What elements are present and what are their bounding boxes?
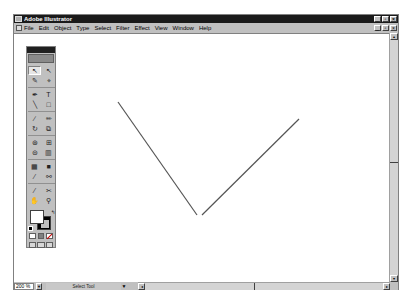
color-mode-button[interactable] (29, 233, 36, 239)
lasso-icon: ⌖ (47, 76, 51, 85)
adobe-logo[interactable] (28, 54, 54, 63)
type-icon: T (46, 90, 50, 99)
mesh-icon: ▦ (31, 162, 38, 171)
blend-tool[interactable]: ⚯ (42, 172, 55, 181)
menu-view[interactable]: View (155, 25, 168, 31)
gradient-mode-button[interactable] (38, 233, 45, 239)
menu-effect[interactable]: Effect (134, 25, 149, 31)
full-screen-menu-mode-button[interactable] (37, 242, 44, 248)
maximize-button[interactable]: ▫ (382, 16, 389, 22)
menu-object[interactable]: Object (54, 25, 71, 31)
tool-separator (28, 183, 55, 184)
rotate-icon: ↻ (32, 124, 38, 133)
blend-icon: ⚯ (46, 172, 52, 181)
slice-tool[interactable]: ⁄ (28, 186, 41, 195)
path-left-line[interactable] (118, 102, 197, 215)
horizontal-scroll-thumb[interactable] (254, 283, 255, 290)
menu-bar: File Edit Object Type Select Filter Effe… (14, 23, 398, 33)
rotate-tool[interactable]: ↻ (28, 124, 41, 133)
standard-screen-mode-button[interactable] (29, 242, 36, 248)
scale-icon: ⧉ (46, 124, 51, 133)
tool-separator (28, 111, 55, 112)
pen-tool[interactable]: ✒ (28, 90, 41, 99)
default-colors-icon[interactable] (28, 226, 33, 231)
status-text: Select Tool (46, 283, 121, 290)
scale-tool[interactable]: ⧉ (42, 124, 55, 133)
vertical-scroll-thumb[interactable] (390, 162, 398, 163)
none-mode-button[interactable] (46, 233, 53, 239)
line-segment-icon: ╲ (33, 100, 37, 109)
tool-separator (28, 159, 55, 160)
eyedropper-icon: ⁄ (34, 172, 35, 181)
tool-grid: ↖↖✎⌖✒T╲□∕✏↻⧉⊛⊞⊜▥▦■⁄⚯⁄✂✋⚲ (27, 64, 55, 207)
magic-wand-icon: ✎ (32, 76, 38, 85)
menu-help[interactable]: Help (199, 25, 211, 31)
column-graph-tool[interactable]: ▥ (42, 148, 55, 157)
title-bar[interactable]: Adobe Illustrator _ ▫ × (14, 15, 398, 23)
lasso-tool[interactable]: ⌖ (42, 76, 55, 85)
rectangle-icon: □ (46, 100, 50, 109)
paint-mode-row (27, 231, 55, 239)
doc-close-button[interactable]: × (390, 25, 397, 31)
status-menu-arrow-icon[interactable]: ▼ (121, 283, 127, 290)
artboard-canvas[interactable] (14, 33, 390, 282)
symbol-sprayer-tool[interactable]: ⊜ (28, 148, 41, 157)
illustrator-window: Adobe Illustrator _ ▫ × File Edit Object… (13, 14, 399, 290)
menu-file[interactable]: File (24, 25, 34, 31)
artwork (14, 34, 390, 282)
zoom-icon: ⚲ (46, 196, 51, 205)
line-segment-tool[interactable]: ╲ (28, 100, 41, 109)
scroll-left-button[interactable]: ◂ (138, 283, 145, 290)
minimize-button[interactable]: _ (374, 16, 381, 22)
mesh-tool[interactable]: ▦ (28, 162, 41, 171)
vertical-scrollbar[interactable]: ▴ ▾ (389, 33, 398, 282)
tool-separator (28, 87, 55, 88)
menu-type[interactable]: Type (76, 25, 89, 31)
scroll-down-button[interactable]: ▾ (390, 275, 398, 282)
scissors-icon: ✂ (46, 186, 52, 195)
menu-filter[interactable]: Filter (116, 25, 129, 31)
gradient-tool[interactable]: ■ (42, 162, 55, 171)
fill-swatch[interactable] (30, 210, 44, 224)
document-icon[interactable] (16, 25, 22, 31)
zoom-level-field[interactable]: 200 % (14, 283, 34, 290)
pencil-tool[interactable]: ✏ (42, 114, 55, 123)
full-screen-mode-button[interactable] (46, 242, 53, 248)
magic-wand-tool[interactable]: ✎ (28, 76, 41, 85)
horizontal-scrollbar[interactable]: ◂ ▸ (138, 282, 390, 290)
toolbox-panel: ↖↖✎⌖✒T╲□∕✏↻⧉⊛⊞⊜▥▦■⁄⚯⁄✂✋⚲ ↰ (26, 46, 56, 248)
swap-fill-stroke-icon[interactable]: ↰ (51, 209, 55, 215)
toolbox-title-bar[interactable] (27, 47, 55, 53)
hand-tool[interactable]: ✋ (28, 196, 41, 205)
window-title: Adobe Illustrator (24, 16, 72, 22)
warp-tool[interactable]: ⊛ (28, 138, 41, 147)
slice-icon: ⁄ (34, 186, 35, 195)
scissors-tool[interactable]: ✂ (42, 186, 55, 195)
menu-edit[interactable]: Edit (39, 25, 49, 31)
selection-tool[interactable]: ↖ (28, 66, 41, 75)
fill-stroke-area: ↰ (28, 209, 56, 231)
direct-selection-icon: ↖ (46, 66, 52, 75)
type-tool[interactable]: T (42, 90, 55, 99)
direct-selection-tool[interactable]: ↖ (42, 66, 55, 75)
app-icon[interactable] (15, 16, 22, 22)
selection-icon: ↖ (32, 66, 38, 75)
doc-minimize-button[interactable]: _ (374, 25, 381, 31)
zoom-tool[interactable]: ⚲ (42, 196, 55, 205)
pen-icon: ✒ (32, 90, 38, 99)
scroll-right-button[interactable]: ▸ (383, 283, 390, 290)
zoom-dropdown-button[interactable]: ▼ (36, 283, 42, 290)
path-right-line[interactable] (202, 119, 299, 215)
menu-select[interactable]: Select (94, 25, 111, 31)
scroll-up-button[interactable]: ▴ (390, 33, 398, 40)
eyedropper-tool[interactable]: ⁄ (28, 172, 41, 181)
tool-separator (28, 135, 55, 136)
close-button[interactable]: × (390, 16, 397, 22)
warp-icon: ⊛ (32, 138, 38, 147)
paintbrush-tool[interactable]: ∕ (28, 114, 41, 123)
menu-window[interactable]: Window (173, 25, 194, 31)
free-transform-tool[interactable]: ⊞ (42, 138, 55, 147)
free-transform-icon: ⊞ (46, 138, 52, 147)
doc-restore-button[interactable]: ▫ (382, 25, 389, 31)
rectangle-tool[interactable]: □ (42, 100, 55, 109)
